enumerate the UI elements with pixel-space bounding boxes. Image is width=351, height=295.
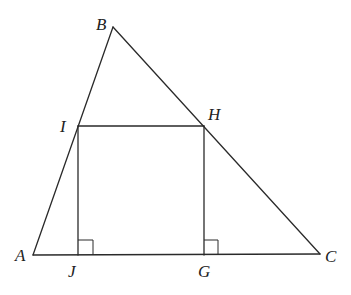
segment-ab [33, 27, 113, 255]
vertex-label-c: C [325, 247, 337, 266]
segment-bc [113, 27, 320, 254]
vertex-label-a: A [14, 246, 26, 265]
vertex-label-g: G [198, 262, 210, 281]
vertex-label-b: B [96, 15, 107, 34]
right-angle-mark-g [204, 240, 218, 255]
triangle-abc [33, 27, 320, 255]
right-angle-mark-j [78, 240, 93, 255]
vertex-label-h: H [207, 105, 222, 124]
rectangle-ihgj [78, 126, 204, 255]
vertex-label-j: J [68, 262, 77, 281]
segment-ac [33, 254, 320, 255]
vertex-label-i: I [59, 117, 67, 136]
geometry-diagram: B I H A J G C [0, 0, 351, 295]
